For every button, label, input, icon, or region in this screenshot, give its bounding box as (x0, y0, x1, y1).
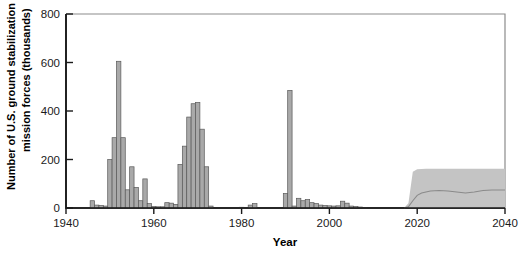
projection-band (404, 169, 505, 208)
x-axis-ticks: 1940 1960 1980 2000 2020 2040 (53, 208, 518, 229)
bar (301, 201, 305, 208)
y-tick-label-200: 200 (41, 154, 60, 166)
bar-series (90, 61, 367, 208)
x-tick-label-2040: 2040 (492, 217, 518, 229)
bar (296, 198, 300, 208)
bar (178, 164, 182, 208)
x-tick-label-2020: 2020 (404, 217, 430, 229)
bar (187, 117, 191, 208)
bar (288, 90, 292, 208)
x-axis-title: Year (273, 236, 298, 248)
y-axis-title-line1: Number of U.S. ground stabilization (5, 3, 17, 190)
y-axis-title-line2: mission forces (thousands) (20, 8, 32, 152)
y-axis-title: Number of U.S. ground stabilization miss… (5, 3, 32, 190)
bar (112, 138, 116, 208)
bar (305, 200, 309, 208)
x-tick-label-1940: 1940 (53, 217, 79, 229)
bar (204, 167, 208, 208)
bar (108, 160, 112, 209)
bar (196, 103, 200, 208)
bar (182, 146, 186, 208)
y-tick-label-0: 0 (54, 202, 60, 214)
bar (90, 201, 94, 208)
y-tick-label-400: 400 (41, 105, 60, 117)
bar (125, 190, 129, 208)
bar (138, 201, 142, 208)
y-tick-label-800: 800 (41, 8, 60, 20)
bar (130, 167, 134, 208)
bar (165, 203, 169, 208)
x-tick-label-1980: 1980 (229, 217, 255, 229)
bar (200, 129, 204, 208)
bar (191, 104, 195, 208)
bar (143, 179, 147, 208)
bar (134, 187, 138, 208)
bar (121, 138, 125, 208)
bar (340, 201, 344, 208)
y-axis-ticks: 0 200 400 600 800 (41, 8, 73, 214)
projection-band-area (404, 169, 505, 208)
bar (116, 61, 120, 208)
y-tick-label-600: 600 (41, 57, 60, 69)
x-tick-label-1960: 1960 (141, 217, 167, 229)
bar (310, 203, 314, 208)
chart-figure: Number of U.S. ground stabilization miss… (0, 0, 528, 253)
bar (283, 193, 287, 208)
chart-svg: Number of U.S. ground stabilization miss… (0, 0, 528, 253)
x-tick-label-2000: 2000 (317, 217, 343, 229)
